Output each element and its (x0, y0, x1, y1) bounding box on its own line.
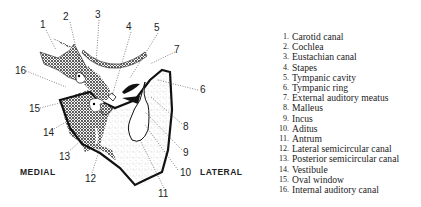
ear-diagram: 1 2 3 4 5 6 7 8 9 10 11 12 13 14 15 16 M… (0, 0, 260, 207)
callout-14: 14 (43, 128, 54, 138)
callout-4: 4 (126, 22, 132, 32)
callout-10: 10 (180, 168, 191, 178)
medial-label: MEDIAL (20, 167, 56, 177)
callout-5: 5 (154, 23, 160, 33)
callout-8: 8 (183, 122, 189, 132)
callout-13: 13 (59, 152, 70, 162)
lateral-label: LATERAL (200, 167, 243, 177)
callout-2: 2 (63, 12, 69, 22)
legend-list: 1.Carotid canal 2.Cochlea 3.Eustachian c… (275, 32, 421, 195)
callout-11: 11 (158, 189, 168, 199)
callout-16: 16 (15, 66, 26, 76)
callout-6: 6 (200, 85, 206, 95)
callout-7: 7 (174, 45, 180, 55)
legend-item: 16.Internal auditory canal (275, 185, 421, 195)
callout-9: 9 (183, 148, 189, 158)
callout-15: 15 (29, 104, 40, 114)
callout-1: 1 (40, 20, 46, 30)
callout-3: 3 (95, 10, 101, 20)
callout-12: 12 (85, 174, 96, 184)
